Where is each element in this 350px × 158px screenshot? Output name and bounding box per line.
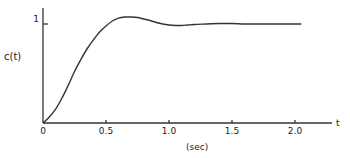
x-tick-label: 2.0 bbox=[288, 126, 303, 136]
response-curve bbox=[43, 17, 301, 123]
step-response-chart: 00.51.01.52.01 c(t) (sec) t bbox=[0, 0, 350, 158]
x-axis-label: (sec) bbox=[186, 142, 208, 152]
x-axis-end-label: t bbox=[336, 118, 340, 128]
x-tick-label: 1.5 bbox=[225, 126, 239, 136]
x-tick-label: 0 bbox=[40, 126, 46, 136]
x-tick-label: 0.5 bbox=[99, 126, 113, 136]
x-tick-label: 1.0 bbox=[162, 126, 177, 136]
y-axis-label: c(t) bbox=[4, 51, 21, 62]
y-tick-label: 1 bbox=[33, 14, 39, 24]
